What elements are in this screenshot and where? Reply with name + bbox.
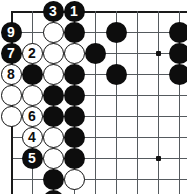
stone-white [64, 43, 85, 64]
stone-black [64, 85, 85, 106]
stone-white [1, 106, 22, 127]
stone-white [1, 85, 22, 106]
stone-black [43, 85, 64, 106]
stone-white [43, 148, 64, 169]
stone-white [64, 169, 85, 190]
move-number: 3 [43, 1, 64, 22]
stone-layer: 319728645 [0, 0, 187, 194]
move-number: 4 [23, 128, 42, 147]
stone-black [85, 43, 106, 64]
move-number: 9 [1, 22, 22, 43]
go-board-diagram: 319728645 [0, 0, 187, 194]
stone-black [43, 169, 64, 190]
stone-black [64, 64, 85, 85]
stone-white-move-4: 4 [22, 127, 43, 148]
stone-black-move-5: 5 [22, 148, 43, 169]
stone-black [43, 190, 64, 195]
stone-black-move-1: 1 [64, 1, 85, 22]
stone-black [169, 64, 188, 85]
stone-white-move-6: 6 [22, 106, 43, 127]
move-number: 1 [64, 1, 85, 22]
stone-white [22, 85, 43, 106]
stone-black [22, 64, 43, 85]
stone-black [106, 64, 127, 85]
move-number: 2 [23, 44, 42, 63]
stone-black [64, 22, 85, 43]
stone-white-move-8: 8 [1, 64, 22, 85]
stone-black-move-3: 3 [43, 1, 64, 22]
move-number: 6 [23, 107, 42, 126]
stone-black [43, 106, 64, 127]
stone-white [43, 22, 64, 43]
move-number: 5 [22, 148, 43, 169]
stone-black-move-7: 7 [1, 43, 22, 64]
move-number: 8 [2, 65, 21, 84]
stone-black [64, 106, 85, 127]
stone-black [169, 43, 188, 64]
stone-black [169, 22, 188, 43]
stone-black [64, 127, 85, 148]
stone-black [64, 148, 85, 169]
stone-white [43, 43, 64, 64]
stone-black [106, 22, 127, 43]
move-number: 7 [1, 43, 22, 64]
stone-black-move-9: 9 [1, 22, 22, 43]
stone-white [43, 64, 64, 85]
stone-white-move-2: 2 [22, 43, 43, 64]
stone-white [43, 127, 64, 148]
